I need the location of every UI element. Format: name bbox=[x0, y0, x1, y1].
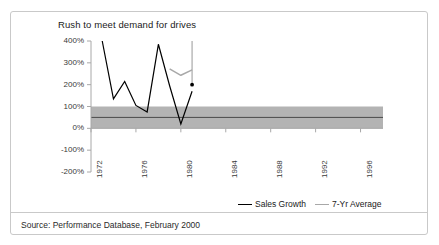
footer-divider bbox=[11, 212, 428, 213]
x-axis-ticks bbox=[91, 128, 361, 132]
chart-legend: Sales Growth 7-Yr Average bbox=[238, 199, 382, 209]
legend-label-sales-growth: Sales Growth bbox=[255, 199, 306, 209]
y-axis-tick-label: -100% bbox=[50, 145, 84, 154]
legend-swatch-sales-growth bbox=[238, 204, 252, 205]
y-axis-tick-label: 0% bbox=[50, 123, 84, 132]
x-axis-tick-label: 1972 bbox=[95, 160, 104, 178]
x-axis-tick-label: 1980 bbox=[185, 160, 194, 178]
y-axis-tick-label: 200% bbox=[50, 80, 84, 89]
x-axis-tick-label: 1996 bbox=[365, 160, 374, 178]
legend-item-7yr-average[interactable]: 7-Yr Average bbox=[315, 199, 381, 209]
y-axis-tick-label: 400% bbox=[50, 36, 84, 45]
legend-item-sales-growth[interactable]: Sales Growth bbox=[238, 199, 306, 209]
source-note: Source: Performance Database, February 2… bbox=[21, 220, 200, 230]
y-axis-ticks bbox=[87, 41, 91, 172]
legend-swatch-7yr-average bbox=[315, 204, 329, 205]
marker-dot bbox=[190, 83, 194, 87]
y-axis-tick-label: 100% bbox=[50, 102, 84, 111]
x-axis-tick-label: 1984 bbox=[230, 160, 239, 178]
chart-screenshot: Rush to meet demand for drives 400%300%2… bbox=[0, 0, 439, 245]
x-axis-tick-label: 1992 bbox=[320, 160, 329, 178]
x-axis-tick-label: 1976 bbox=[140, 160, 149, 178]
y-axis-tick-label: 300% bbox=[50, 58, 84, 67]
y-axis-tick-label: -200% bbox=[50, 167, 84, 176]
legend-label-7yr-average: 7-Yr Average bbox=[332, 199, 381, 209]
x-axis-tick-label: 1988 bbox=[275, 160, 284, 178]
series-line-7yr-average bbox=[170, 69, 192, 75]
